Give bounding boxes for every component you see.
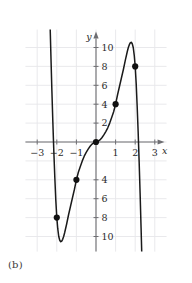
axis-titles: xy: [85, 31, 168, 156]
x-tick-label: −2: [50, 147, 64, 158]
y-tick-label: 10: [102, 231, 114, 242]
data-point: [73, 177, 79, 183]
y-tick-label: 4: [102, 99, 108, 110]
x-tick-label: 2: [132, 147, 138, 158]
y-tick-label: 8: [102, 212, 108, 223]
y-tick-label: 2: [102, 117, 108, 128]
data-point: [93, 139, 99, 145]
figure-panel: −3−2−112310864246810xy (b): [0, 0, 192, 283]
data-point: [132, 63, 138, 69]
data-point: [54, 215, 60, 221]
data-point: [113, 101, 119, 107]
function-graph: −3−2−112310864246810xy: [0, 0, 192, 283]
y-tick-label: 10: [102, 42, 114, 53]
y-tick-label: 4: [102, 174, 108, 185]
x-axis-label: x: [162, 145, 168, 156]
x-tick-label: 3: [152, 147, 158, 158]
x-tick-label: −1: [69, 147, 83, 158]
y-axis-label: y: [85, 31, 92, 42]
figure-caption: (b): [8, 259, 23, 270]
x-tick-label: 1: [113, 147, 119, 158]
y-tick-label: 6: [102, 80, 108, 91]
y-tick-label: 6: [102, 193, 108, 204]
x-tick-label: −3: [30, 147, 44, 158]
y-tick-label: 8: [102, 61, 108, 72]
